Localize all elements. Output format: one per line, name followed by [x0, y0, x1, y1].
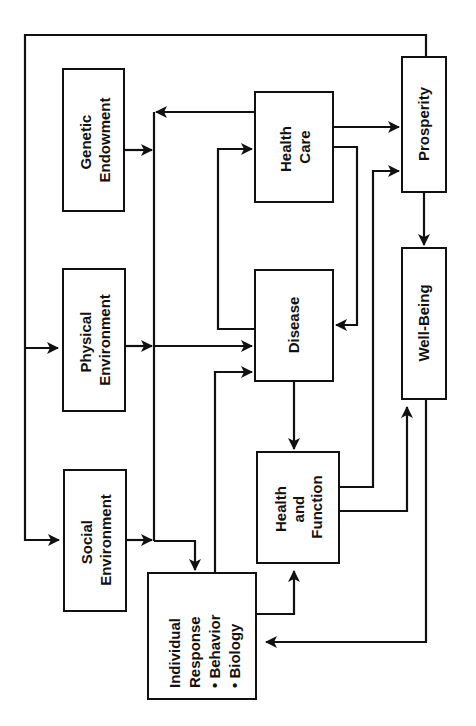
- label-health: Health: [277, 126, 294, 172]
- svg-text:Prosperity: Prosperity: [415, 86, 432, 161]
- node-disease: Disease: [255, 270, 333, 381]
- label-function: Function: [308, 475, 325, 538]
- node-health-care: Health Care: [255, 92, 333, 202]
- label-environment: Environment: [97, 494, 114, 586]
- svg-text:Disease: Disease: [285, 297, 302, 354]
- label-disease: Disease: [285, 297, 302, 354]
- label-genetic: Genetic: [77, 115, 94, 170]
- svg-text:Well-Being: Well-Being: [415, 284, 432, 361]
- node-social-environment: Social Environment: [64, 470, 126, 611]
- node-prosperity: Prosperity: [402, 57, 446, 192]
- edge-individual-response-to-disease: [215, 372, 252, 573]
- edge-individual-response-to-health-function: [256, 571, 294, 614]
- label-response: Response: [186, 616, 203, 688]
- label-social: Social: [78, 520, 95, 564]
- node-genetic-endowment: Genetic Endowment: [63, 69, 124, 211]
- node-individual-response: Individual Response • Behavior • Biology: [148, 573, 256, 699]
- edge-bus-to-individual-response: [154, 541, 195, 570]
- label-individual: Individual: [166, 618, 183, 688]
- label-well-being: Well-Being: [415, 284, 432, 361]
- node-physical-environment: Physical Environment: [63, 269, 125, 411]
- health-determinants-diagram: Genetic Endowment Physical Environment S…: [0, 0, 476, 726]
- edge-health-function-to-prosperity: [339, 171, 399, 487]
- edge-health-care-to-disease: [333, 147, 357, 325]
- node-well-being: Well-Being: [402, 248, 446, 399]
- label-biology: • Biology: [226, 623, 243, 688]
- label-physical: Physical: [77, 312, 94, 373]
- edge-disease-to-health-care: [218, 149, 255, 329]
- label-environment: Environment: [96, 294, 113, 386]
- node-health-and-function: Health and Function: [257, 452, 339, 563]
- label-and: and: [290, 496, 307, 523]
- label-prosperity: Prosperity: [415, 86, 432, 161]
- label-health: Health: [272, 486, 289, 532]
- label-care: Care: [296, 130, 313, 163]
- label-endowment: Endowment: [96, 97, 113, 182]
- label-behavior: • Behavior: [206, 614, 223, 688]
